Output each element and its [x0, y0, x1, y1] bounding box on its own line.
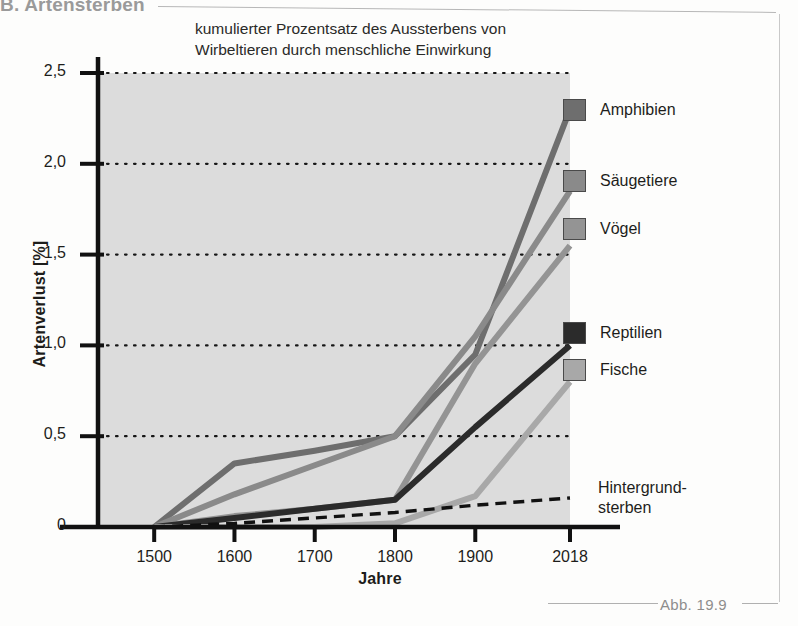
legend-item-sugetiere[interactable]: Säugetiere	[563, 170, 677, 192]
x-tick-label: 1800	[360, 548, 430, 566]
y-tick-label: 1,5	[14, 244, 66, 262]
x-tick-label: 1900	[440, 548, 510, 566]
legend-swatch	[563, 99, 586, 121]
y-tick-label: 0,5	[14, 425, 66, 443]
y-tick-label: 0	[14, 516, 66, 534]
legend-label: Reptilien	[600, 324, 662, 342]
x-tick-label: 1600	[199, 548, 269, 566]
legend-swatch	[563, 359, 586, 381]
x-tick-label: 1500	[119, 548, 189, 566]
background-extinction-label-line2: sterben	[598, 498, 687, 518]
legend-label: Amphibien	[600, 101, 676, 119]
y-tick-label: 1,0	[14, 334, 66, 352]
y-tick-label: 2,0	[14, 153, 66, 171]
y-tick-label: 2,5	[14, 62, 66, 80]
legend-item-vgel[interactable]: Vögel	[563, 218, 641, 240]
legend-swatch	[563, 322, 586, 344]
x-tick-label: 2018	[535, 548, 605, 566]
x-tick-label: 1700	[280, 548, 350, 566]
legend-item-fische[interactable]: Fische	[563, 359, 647, 381]
figure-root: B. Artensterben Abb. 19.9 kumulierter Pr…	[0, 0, 798, 626]
legend-item-reptilien[interactable]: Reptilien	[563, 322, 662, 344]
legend-swatch	[563, 218, 586, 240]
legend-item-amphibien[interactable]: Amphibien	[563, 99, 676, 121]
legend-label: Säugetiere	[600, 172, 677, 190]
plot-canvas	[0, 0, 798, 626]
background-extinction-label: Hintergrund- sterben	[598, 478, 687, 518]
background-extinction-label-line1: Hintergrund-	[598, 478, 687, 498]
legend-swatch	[563, 170, 586, 192]
legend-label: Fische	[600, 361, 647, 379]
legend-label: Vögel	[600, 220, 641, 238]
